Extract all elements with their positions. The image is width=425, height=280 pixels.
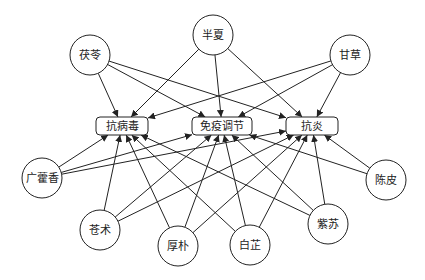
herb-label-baizhi: 白芷 bbox=[239, 240, 261, 251]
edge-gancao-antiinflam bbox=[317, 73, 341, 117]
edge-cangzhu-immune bbox=[115, 135, 211, 217]
edge-gancao-antiviral bbox=[148, 61, 331, 118]
herb-label-chenpi: 陈皮 bbox=[375, 175, 397, 186]
edge-chenpi-antiinflam bbox=[324, 135, 370, 168]
edge-cangzhu-antiviral bbox=[104, 135, 120, 210]
edge-guanghuoxiang-immune bbox=[61, 135, 192, 173]
effect-label-antiviral: 抗病毒 bbox=[106, 121, 139, 132]
edge-fuling-antiinflam bbox=[109, 61, 286, 118]
herb-label-fuling: 茯苓 bbox=[79, 50, 101, 61]
edge-baizhi-antiviral bbox=[132, 135, 236, 231]
herb-label-houpo: 厚朴 bbox=[167, 241, 189, 252]
herb-label-gancao: 甘草 bbox=[339, 50, 361, 61]
effect-label-immune: 免疫调节 bbox=[200, 121, 244, 132]
herb-effect-network bbox=[0, 0, 425, 280]
edge-gancao-immune bbox=[238, 65, 332, 117]
edge-baizhi-immune bbox=[224, 135, 245, 226]
edge-zisu-antiinflam bbox=[313, 135, 324, 204]
edge-fuling-antiviral bbox=[98, 73, 118, 117]
herb-label-cangzhu: 苍术 bbox=[89, 225, 111, 236]
edge-banxia-antiinflam bbox=[228, 49, 302, 117]
effect-label-antiinflam: 抗炎 bbox=[301, 121, 323, 132]
edge-fuling-immune bbox=[108, 64, 206, 117]
herb-label-guanghuoxiang: 广藿香 bbox=[26, 173, 59, 184]
edge-guanghuoxiang-antiinflam bbox=[62, 131, 286, 174]
edge-guanghuoxiang-antiviral bbox=[59, 135, 108, 167]
herb-label-zisu: 紫苏 bbox=[317, 219, 339, 230]
herb-label-banxia: 半夏 bbox=[202, 30, 224, 41]
edge-houpo-immune bbox=[185, 135, 219, 227]
edge-banxia-immune bbox=[215, 55, 221, 117]
